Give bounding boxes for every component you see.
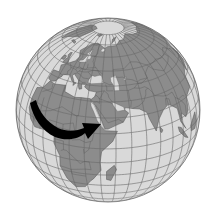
globe-map: Black curved arrow sweeping from northwe… (0, 0, 212, 220)
globe-shading (16, 18, 200, 202)
globe-svg (0, 0, 212, 220)
